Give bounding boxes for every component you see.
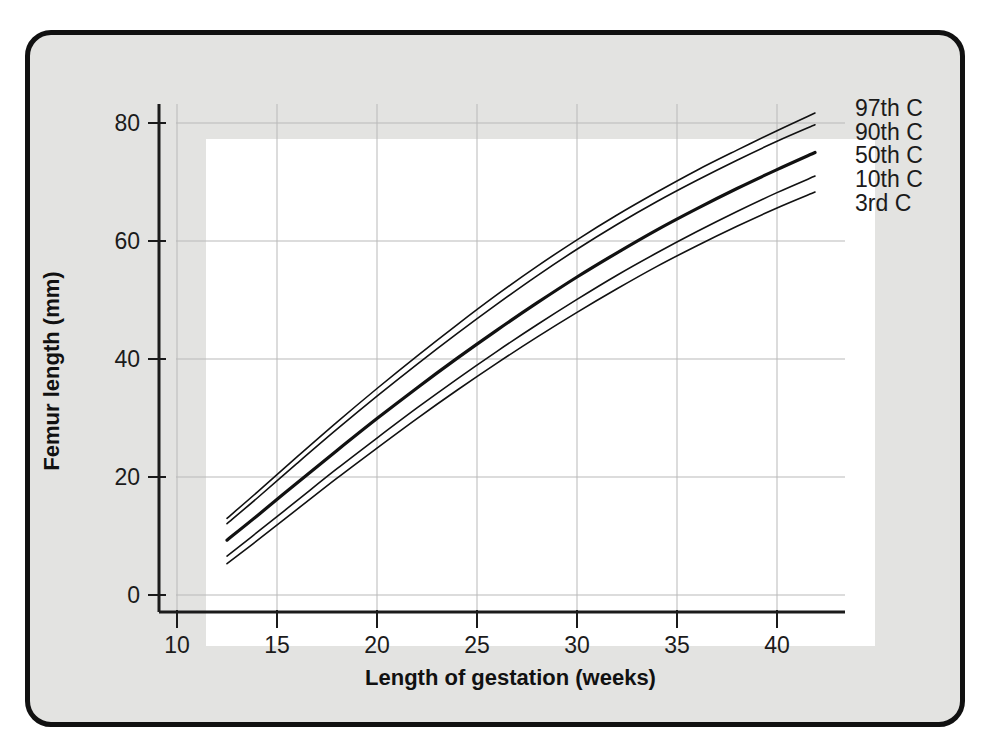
x-tick-label: 40 (764, 632, 790, 659)
x-tick-label: 10 (164, 632, 190, 659)
x-tick-label: 30 (564, 632, 590, 659)
y-axis-title: Femur length (mm) (39, 241, 65, 501)
x-tick-label: 35 (664, 632, 690, 659)
y-tick-label: 40 (70, 346, 140, 373)
figure-frame: Femur length (mm) Length of gestation (w… (25, 30, 965, 727)
legend-label-3rd-c: 3rd C (855, 189, 911, 216)
x-tick-label: 25 (464, 632, 490, 659)
y-tick-label: 80 (70, 110, 140, 137)
y-tick-label: 60 (70, 228, 140, 255)
y-tick-label: 20 (70, 464, 140, 491)
labels-layer: Femur length (mm) Length of gestation (w… (0, 0, 990, 744)
x-tick-label: 15 (264, 632, 290, 659)
chart-figure: Femur length (mm) Length of gestation (w… (0, 0, 990, 744)
y-tick-label: 0 (70, 582, 140, 609)
x-tick-label: 20 (364, 632, 390, 659)
x-axis-title: Length of gestation (weeks) (176, 665, 845, 691)
